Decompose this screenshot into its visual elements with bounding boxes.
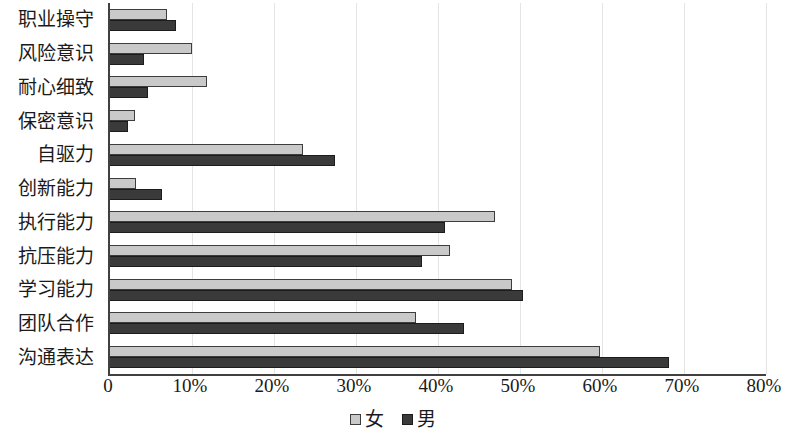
bar-group [110,104,766,138]
x-tick-label: 10% [173,376,208,395]
bar-group [110,172,766,206]
x-tick-label: 70% [665,376,700,395]
bar-female [110,245,450,256]
bar-group [110,37,766,71]
bar-male [110,121,128,132]
category-label: 创新能力 [0,172,100,206]
bar-male [110,290,523,301]
legend-item: 女 [350,410,384,429]
category-label: 执行能力 [0,205,100,239]
category-label: 团队合作 [0,307,100,341]
value-axis: 010%20%30%40%50%60%70%80% [108,376,764,402]
bar-female [110,178,136,189]
legend-item: 男 [402,410,436,429]
bars-layer [110,3,766,374]
bar-chart: 职业操守风险意识耐心细致保密意识自驱力创新能力执行能力抗压能力学习能力团队合作沟… [0,0,785,438]
plot-area [108,3,766,376]
x-tick-label: 40% [419,376,454,395]
bar-female [110,9,167,20]
bar-female [110,279,512,290]
category-label: 学习能力 [0,273,100,307]
bar-female [110,211,495,222]
bar-group [110,307,766,341]
legend-swatch-icon [350,414,361,425]
gridline [766,3,767,374]
category-label: 抗压能力 [0,239,100,273]
bar-group [110,340,766,374]
bar-group [110,70,766,104]
bar-group [110,205,766,239]
x-tick-label: 0 [103,376,113,395]
legend-label: 女 [365,410,384,429]
x-tick-label: 30% [337,376,372,395]
bar-male [110,155,335,166]
bar-group [110,239,766,273]
legend-swatch-icon [402,414,413,425]
bar-female [110,312,416,323]
bar-female [110,144,303,155]
category-label: 自驱力 [0,138,100,172]
category-label: 保密意识 [0,104,100,138]
bar-male [110,222,445,233]
category-label: 沟通表达 [0,340,100,374]
x-tick-label: 50% [501,376,536,395]
bar-group [110,273,766,307]
category-label: 职业操守 [0,3,100,37]
category-label: 耐心细致 [0,70,100,104]
x-tick-label: 80% [747,376,782,395]
bar-male [110,323,464,334]
bar-group [110,3,766,37]
chart-legend: 女男 [0,410,785,429]
bar-male [110,256,422,267]
category-axis: 职业操守风险意识耐心细致保密意识自驱力创新能力执行能力抗压能力学习能力团队合作沟… [0,3,100,374]
bar-female [110,43,192,54]
x-tick-label: 20% [255,376,290,395]
legend-label: 男 [417,410,436,429]
bar-female [110,346,600,357]
bar-male [110,357,669,368]
bar-male [110,189,162,200]
bar-male [110,20,176,31]
category-label: 风险意识 [0,37,100,71]
bar-female [110,76,207,87]
bar-group [110,138,766,172]
x-tick-label: 60% [583,376,618,395]
bar-male [110,54,144,65]
bar-female [110,110,135,121]
bar-male [110,87,148,98]
